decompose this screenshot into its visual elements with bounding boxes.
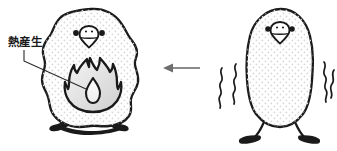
shiver-line-left-outer bbox=[219, 68, 222, 108]
shiver-line-right-outer bbox=[331, 70, 334, 98]
left-bird-fluffed bbox=[40, 6, 142, 135]
bird-thermogenesis-illustration: 熱産生 bbox=[0, 0, 337, 151]
right-bird-shivering bbox=[219, 6, 334, 143]
shiver-line-left-inner bbox=[233, 64, 236, 104]
left-bird-eye-right bbox=[99, 30, 105, 36]
left-bird-eye-left bbox=[73, 30, 79, 36]
illustration-canvas: 熱産生 bbox=[0, 0, 337, 151]
annotation-label: 熱産生 bbox=[8, 35, 43, 49]
shiver-line-right-inner bbox=[324, 62, 327, 102]
heat-production-flame bbox=[65, 58, 122, 112]
transition-arrow bbox=[163, 64, 200, 73]
